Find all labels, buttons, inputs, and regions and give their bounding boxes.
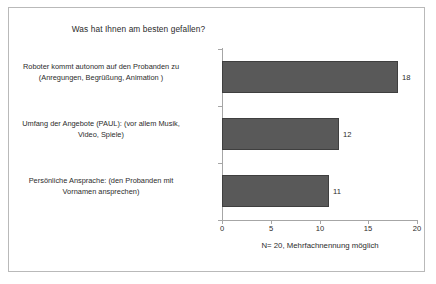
bar-value-1: 18 — [402, 73, 410, 82]
y-axis-tick — [218, 49, 223, 50]
y-axis-tick — [218, 106, 223, 107]
bar-value-3: 11 — [333, 187, 341, 196]
x-axis-label-5: 5 — [259, 224, 283, 233]
x-axis-label-0: 0 — [210, 224, 234, 233]
category-label-2-line1: Umfang der Angebote (PAUL): (vor allem M… — [22, 119, 180, 128]
axis-caption: N= 20, Mehrfachnennung möglich — [222, 241, 418, 250]
category-label-2: Umfang der Angebote (PAUL): (vor allem M… — [1, 119, 201, 140]
bar-1 — [222, 61, 398, 93]
x-axis-label-20: 20 — [405, 224, 429, 233]
category-label-3: Persönliche Ansprache: (den Probanden mi… — [1, 176, 201, 197]
chart-frame: Was hat Ihnen am besten gefallen? Robote… — [8, 7, 425, 272]
category-label-2-line2: Video, Spiele) — [1, 130, 201, 141]
category-label-3-line2: Vornamen ansprechen) — [1, 187, 201, 198]
x-axis-label-10: 10 — [308, 224, 332, 233]
category-label-1: Roboter kommt autonom auf den Probanden … — [1, 62, 201, 83]
bar-value-2: 12 — [343, 130, 351, 139]
category-label-1-line2: (Anregungen, Begrüßung, Animation ) — [1, 73, 201, 84]
y-axis-tick — [218, 163, 223, 164]
x-axis-label-15: 15 — [356, 224, 380, 233]
bar-3 — [222, 175, 329, 207]
bar-2 — [222, 118, 339, 150]
category-label-3-line1: Persönliche Ansprache: (den Probanden mi… — [29, 176, 174, 185]
chart-title: Was hat Ihnen am besten gefallen? — [31, 24, 246, 34]
category-label-1-line1: Roboter kommt autonom auf den Probanden … — [23, 62, 179, 71]
